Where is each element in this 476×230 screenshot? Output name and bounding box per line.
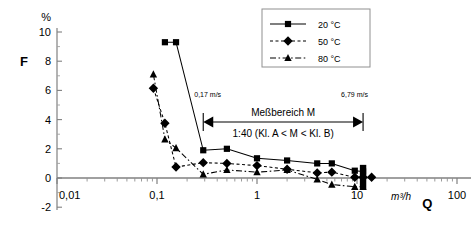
data-point-triangle — [150, 70, 157, 77]
range-arrow-left-head — [203, 117, 213, 128]
data-point-square — [314, 160, 320, 166]
data-point-diamond — [328, 168, 335, 175]
chart-container: -20246810%F0,010,1110100m³/hQMeßbereich … — [0, 0, 476, 230]
data-point-square — [200, 147, 206, 153]
data-point-square — [162, 39, 168, 45]
data-point-square — [173, 39, 179, 45]
max-flow-bar — [360, 165, 366, 189]
x-tick-label: 10 — [351, 189, 363, 201]
y-tick-label: 0 — [45, 172, 51, 184]
y-tick-label: 2 — [45, 143, 51, 155]
y-axis-unit: % — [41, 11, 51, 23]
data-point-square — [254, 155, 260, 161]
data-point-square — [224, 146, 230, 152]
error-curve-chart: -20246810%F0,010,1110100m³/hQMeßbereich … — [0, 0, 476, 230]
range-arrow-right-head — [353, 117, 363, 128]
x-tick-label: 1 — [254, 189, 260, 201]
velocity-right-label: 6,79 m/s — [341, 91, 368, 98]
y-tick-label: 8 — [45, 55, 51, 67]
y-axis-label: F — [20, 54, 28, 69]
range-label-line2: 1:40 (Kl. A < M < Kl. B) — [233, 128, 334, 139]
data-point-diamond — [200, 159, 207, 166]
x-tick-label: 0,01 — [59, 189, 80, 201]
legend-label-1: 50 °C — [318, 37, 341, 47]
legend-box — [262, 9, 370, 67]
data-point-triangle — [161, 135, 168, 142]
data-point-square — [329, 160, 335, 166]
data-point-diamond — [172, 163, 179, 170]
legend-label-0: 20 °C — [318, 20, 341, 30]
y-tick-label: 6 — [45, 84, 51, 96]
x-axis-label: Q — [422, 196, 432, 211]
y-tick-label: -2 — [41, 201, 51, 213]
x-tick-label: 100 — [448, 189, 466, 201]
data-point-triangle — [328, 181, 335, 188]
data-point-diamond — [368, 174, 375, 181]
data-point-triangle — [223, 166, 230, 173]
data-point-square — [284, 157, 290, 163]
x-tick-label: 0,1 — [149, 189, 164, 201]
range-label-line1: Meßbereich M — [251, 107, 315, 118]
legend-label-2: 80 °C — [318, 54, 341, 64]
velocity-left-label: 0,17 m/s — [194, 91, 221, 98]
x-axis-unit: m³/h — [391, 191, 411, 202]
y-tick-label: 10 — [39, 26, 51, 38]
data-point-square — [285, 21, 291, 27]
data-point-triangle — [172, 144, 179, 151]
y-tick-label: 4 — [45, 114, 51, 126]
